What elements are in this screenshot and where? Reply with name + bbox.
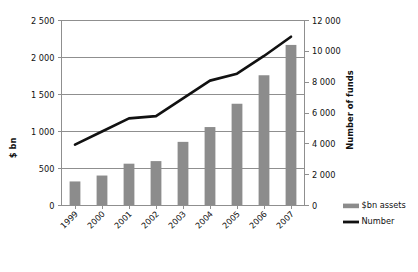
left-axis-tick-label: 0 xyxy=(49,201,54,211)
bar xyxy=(70,181,81,205)
right-axis-tick-label: 2 000 xyxy=(312,170,335,180)
legend-bar-swatch-icon xyxy=(343,204,359,209)
bar xyxy=(124,164,135,206)
right-axis-tick-label: 8 000 xyxy=(312,77,335,87)
left-axis-tick-label: 1 000 xyxy=(31,127,54,137)
bar xyxy=(97,176,108,206)
legend-item-label: $bn assets xyxy=(362,200,406,210)
chart-container: 05001 0001 5002 0002 500 02 0004 0006 00… xyxy=(0,0,418,272)
left-axis-title: $ bn xyxy=(8,138,18,159)
right-axis-tick-label: 0 xyxy=(312,201,317,211)
right-axis-tick-label: 12 000 xyxy=(312,16,341,26)
legend-item-label: Number xyxy=(362,216,396,226)
bar xyxy=(151,161,162,205)
left-axis-tick-label: 1 500 xyxy=(31,90,54,100)
bar xyxy=(178,142,189,206)
left-axis-tick-label: 500 xyxy=(39,164,55,174)
left-axis-tick-label: 2 500 xyxy=(31,16,54,26)
bar xyxy=(232,104,243,206)
bar xyxy=(205,127,216,205)
left-axis-tick-label: 2 000 xyxy=(31,53,54,63)
right-axis-tick-label: 4 000 xyxy=(312,139,335,149)
bar xyxy=(259,75,270,205)
bar xyxy=(286,45,297,206)
right-axis-tick-label: 6 000 xyxy=(312,108,335,118)
combo-bar-line-chart: 05001 0001 5002 0002 500 02 0004 0006 00… xyxy=(0,0,418,272)
right-axis-title: Number of funds xyxy=(345,70,355,149)
right-axis-tick-label: 10 000 xyxy=(312,46,341,56)
